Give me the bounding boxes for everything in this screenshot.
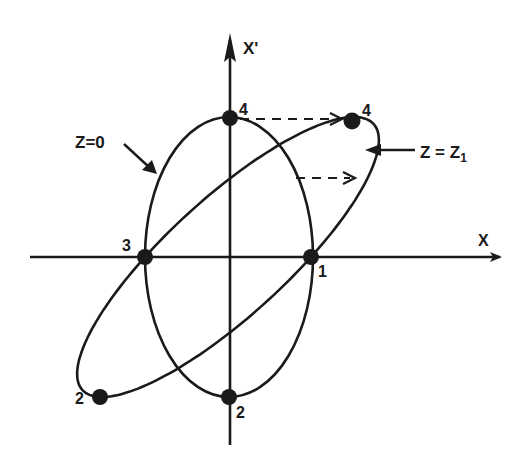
point-label-2-z0: 2: [236, 404, 245, 421]
x-axis-label: X: [478, 232, 489, 249]
point-3: [137, 249, 153, 265]
point-label-4-z1: 4: [362, 102, 371, 119]
point-4-z0: [222, 110, 238, 126]
point-label-4-z0: 4: [239, 101, 248, 118]
phase-space-diagram: X X' Z=0 Z = Z1 4 4 3 1 2 2: [0, 0, 525, 469]
arrow-icon: [365, 144, 381, 156]
point-label-3: 3: [122, 237, 131, 254]
z1-label: Z = Z1: [420, 143, 467, 165]
dashed-arrow-middle: [296, 172, 355, 184]
point-label-2-z1: 2: [75, 390, 84, 407]
x-prime-axis: [224, 33, 236, 445]
z0-label: Z=0: [75, 133, 105, 152]
x-prime-axis-label: X': [243, 39, 258, 58]
point-4-z1: [344, 113, 361, 130]
point-1: [303, 249, 319, 265]
point-2-z1: [92, 389, 108, 405]
point-2-z0: [221, 389, 237, 405]
point-label-1: 1: [318, 263, 327, 280]
z0-pointer: [124, 144, 157, 174]
z1-pointer: [365, 144, 415, 156]
